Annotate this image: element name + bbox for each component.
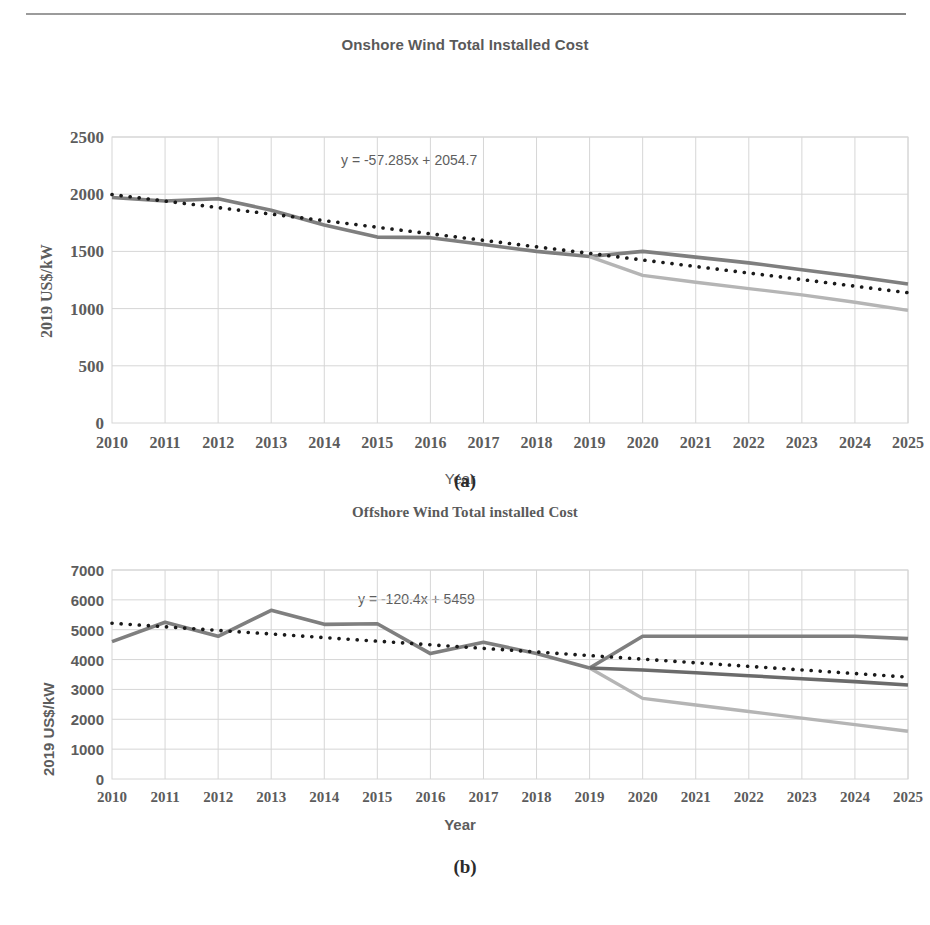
y-axis-label-a: 2019 US$/kW [38, 244, 56, 338]
x-tick-label: 2015 [351, 789, 403, 806]
x-tick-label: 2010 [86, 789, 138, 806]
x-tick-label: 2024 [829, 789, 881, 806]
x-tick-label: 2019 [564, 434, 616, 452]
x-tick-label: 2018 [511, 789, 563, 806]
trendline-equation-b: y = -120.4x + 5459 [358, 591, 475, 607]
x-tick-label: 2013 [245, 434, 297, 452]
x-tick-label: 2017 [457, 434, 509, 452]
x-tick-label: 2020 [617, 434, 669, 452]
x-tick-label: 2025 [882, 789, 930, 806]
x-tick-label: 2021 [670, 434, 722, 452]
x-tick-label: 2013 [245, 789, 297, 806]
x-tick-label: 2023 [776, 789, 828, 806]
y-tick-label: 2000 [71, 711, 104, 728]
x-tick-label: 2014 [298, 789, 350, 806]
y-tick-label: 1500 [70, 242, 104, 262]
chart-title-b: Offshore Wind Total installed Cost [0, 498, 930, 521]
x-tick-label: 2011 [139, 789, 191, 806]
figure-offshore-wind: Offshore Wind Total installed Cost 2019 … [0, 498, 930, 918]
y-tick-label: 6000 [71, 592, 104, 609]
y-tick-label: 0 [96, 771, 104, 788]
x-tick-label: 2020 [617, 789, 669, 806]
y-tick-label: 7000 [71, 562, 104, 579]
x-tick-label: 2010 [86, 434, 138, 452]
y-tick-label: 3000 [71, 681, 104, 698]
trendline-equation-a: y = -57.285x + 2054.7 [341, 152, 477, 168]
figure-caption-a: (a) [0, 470, 930, 492]
x-tick-label: 2017 [457, 789, 509, 806]
y-tick-label: 5000 [71, 622, 104, 639]
x-tick-label: 2014 [298, 434, 350, 452]
figure-caption-b: (b) [0, 856, 930, 878]
x-axis-label-b: Year [400, 816, 520, 833]
x-tick-label: 2023 [776, 434, 828, 452]
x-tick-label: 2016 [404, 434, 456, 452]
x-tick-label: 2025 [882, 434, 930, 452]
x-tick-label: 2016 [404, 789, 456, 806]
y-tick-label: 2500 [70, 128, 104, 148]
y-tick-label: 1000 [70, 300, 104, 320]
x-tick-label: 2022 [723, 434, 775, 452]
x-tick-label: 2018 [511, 434, 563, 452]
y-tick-label: 500 [79, 357, 105, 377]
x-tick-label: 2021 [670, 789, 722, 806]
figure-onshore-wind: Onshore Wind Total Installed Cost 2019 U… [0, 28, 930, 498]
page-header-rule [26, 13, 906, 15]
y-tick-label: 1000 [71, 741, 104, 758]
x-tick-label: 2011 [139, 434, 191, 452]
x-tick-label: 2015 [351, 434, 403, 452]
chart-title-a: Onshore Wind Total Installed Cost [0, 28, 930, 53]
x-tick-label: 2019 [564, 789, 616, 806]
x-tick-label: 2022 [723, 789, 775, 806]
x-tick-label: 2012 [192, 789, 244, 806]
y-axis-label-b: 2019 US$/kW [40, 683, 57, 776]
y-tick-label: 2000 [70, 185, 104, 205]
x-tick-label: 2012 [192, 434, 244, 452]
y-tick-label: 0 [96, 414, 105, 434]
y-tick-label: 4000 [71, 652, 104, 669]
x-tick-label: 2024 [829, 434, 881, 452]
